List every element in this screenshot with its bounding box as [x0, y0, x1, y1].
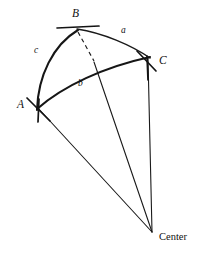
radius-line-p-center — [94, 62, 152, 232]
tick-mark-a-vertical-icon — [38, 99, 39, 122]
figure-canvas: A B C a b c Center — [0, 0, 202, 256]
arc-side-c — [37, 30, 78, 110]
side-label-c: c — [34, 45, 39, 55]
vertex-label-b: B — [72, 7, 79, 19]
dashed-altitude-line — [78, 32, 94, 61]
arc-side-b — [37, 57, 150, 109]
side-label-a: a — [121, 25, 126, 35]
vertex-tick-marks-group — [27, 26, 156, 122]
vertex-label-a: A — [16, 98, 25, 110]
center-label: Center — [159, 231, 187, 242]
radius-lines-group — [38, 58, 152, 232]
side-label-b: b — [78, 78, 83, 88]
vertex-label-c: C — [159, 54, 167, 66]
radius-line-a-center — [38, 108, 152, 232]
geometry-diagram: A B C a b c Center — [0, 0, 202, 256]
radius-line-c-center — [148, 58, 152, 232]
tick-mark-b-icon — [57, 26, 99, 28]
tick-mark-c-vertical-icon — [147, 56, 148, 80]
